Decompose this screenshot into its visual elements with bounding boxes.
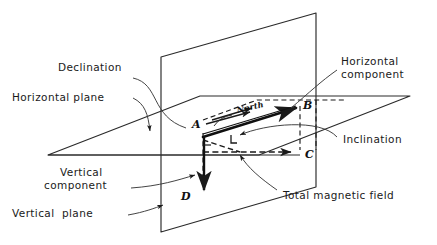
horizontal-component-label-line1: Horizontal: [341, 56, 399, 68]
declination-leader: [133, 78, 186, 128]
point-label-a: A: [192, 118, 201, 131]
inclination-angle-tick: [231, 135, 237, 143]
vertical-component-leader: [131, 175, 195, 188]
inclination-leader: [240, 125, 337, 137]
horizontal-plane-leader: [133, 98, 150, 131]
horizontal-component-label-line2: component: [341, 69, 404, 81]
declination-label: Declination: [58, 62, 122, 74]
dashed-construction-lines: [203, 100, 345, 180]
horizontal-plane-outline: [48, 96, 410, 155]
total-magnetic-field-label: Total magnetic field: [283, 190, 394, 202]
vertical-component-label-line2: component: [44, 180, 107, 192]
magnetic-field-diagram: Declination Horizontal plane Horizontal …: [0, 0, 437, 245]
point-label-c: C: [305, 148, 314, 161]
vertical-component-label-line1: Vertical: [60, 167, 103, 179]
vertical-plane-label: Vertical plane: [12, 208, 93, 220]
inclination-label: Inclination: [343, 134, 402, 146]
point-label-d: D: [181, 190, 191, 203]
point-label-b: B: [303, 99, 312, 112]
total-magnetic-field-leader: [240, 155, 277, 190]
horizontal-component-leader: [291, 70, 337, 108]
vertical-plane-leader: [128, 205, 163, 215]
horizontal-plane-label: Horizontal plane: [12, 92, 104, 104]
dashed-a-to-c-base: [203, 140, 240, 152]
